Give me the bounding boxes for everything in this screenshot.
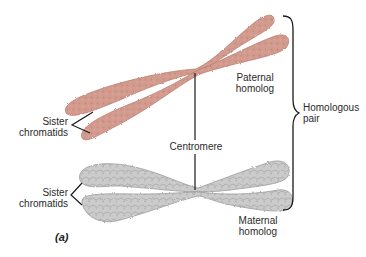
label-line: homolog	[232, 226, 284, 237]
sister-chromatids-bottom-pointer	[71, 183, 82, 205]
paternal-homolog-label: Paternal homolog	[230, 72, 280, 94]
maternal-homolog-label: Maternal homolog	[232, 215, 284, 237]
label-line: chromatids	[18, 198, 68, 209]
centromere-label: Centromere	[168, 141, 224, 152]
label-line: homolog	[230, 83, 280, 94]
maternal-homolog-shape	[80, 161, 293, 222]
homologous-pair-label: Homologous pair	[303, 102, 359, 124]
label-line: Homologous	[303, 102, 359, 113]
homologous-chromosomes-diagram: Sister chromatids Sister chromatids Pate…	[0, 0, 366, 257]
label-line: chromatids	[18, 127, 68, 138]
label-line: Centromere	[170, 141, 223, 152]
panel-label: (a)	[55, 231, 68, 243]
sister-chromatids-bottom-label: Sister chromatids	[18, 187, 68, 209]
label-line: Sister	[18, 187, 68, 198]
label-line: pair	[303, 113, 359, 124]
label-line: Paternal	[230, 72, 280, 83]
label-line: Maternal	[232, 215, 284, 226]
label-line: Sister	[18, 116, 68, 127]
sister-chromatids-top-label: Sister chromatids	[18, 116, 68, 138]
